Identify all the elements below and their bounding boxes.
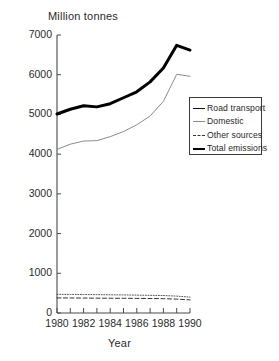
y-tick-label: 2000 <box>12 227 52 239</box>
emissions-line-chart: Million tonnes 0100020003000400050006000… <box>0 0 279 361</box>
series-line-2 <box>57 294 190 297</box>
legend-swatch-icon <box>193 116 205 126</box>
legend-item-1: Domestic <box>193 115 244 128</box>
series-line-3 <box>57 45 190 114</box>
legend-swatch-icon <box>193 143 205 153</box>
axis-lines <box>57 35 190 313</box>
legend-item-0: Road transport <box>193 101 265 114</box>
legend-swatch-icon <box>193 103 205 113</box>
y-tick-label: 3000 <box>12 187 52 199</box>
x-tick-label: 1990 <box>173 317 207 329</box>
series-line-1 <box>57 74 190 149</box>
y-tick-label: 4000 <box>12 147 52 159</box>
legend-swatch-icon <box>193 130 205 140</box>
legend-item-label: Domestic <box>207 116 244 126</box>
tick-marks <box>57 35 190 313</box>
y-tick-label: 1000 <box>12 266 52 278</box>
legend-item-label: Total emissions <box>207 143 267 153</box>
series-line-0 <box>57 298 190 300</box>
legend-item-label: Road transport <box>207 103 265 113</box>
y-tick-label: 5000 <box>12 107 52 119</box>
legend-item-3: Total emissions <box>193 142 267 155</box>
y-tick-label: 6000 <box>12 68 52 80</box>
x-axis-title: Year <box>108 337 131 349</box>
legend-item-label: Other sources <box>207 130 262 140</box>
series-lines <box>57 45 190 300</box>
chart-legend: Road transportDomesticOther sourcesTotal… <box>189 97 262 155</box>
legend-item-2: Other sources <box>193 128 262 141</box>
y-tick-label: 7000 <box>12 28 52 40</box>
